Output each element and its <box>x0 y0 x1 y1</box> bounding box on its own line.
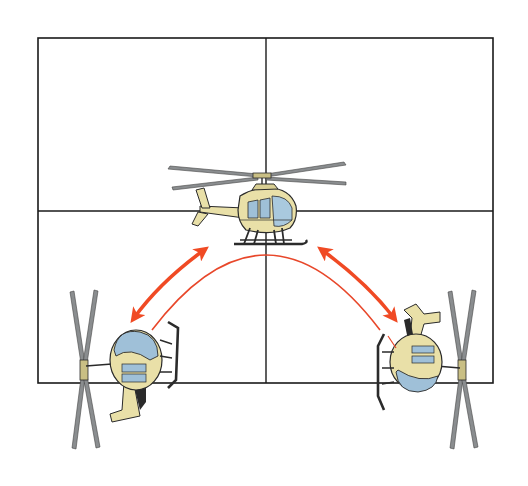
hover-turn-diagram <box>0 0 528 486</box>
